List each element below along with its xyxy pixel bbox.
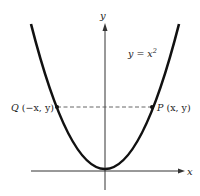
point-p-name: P [156,102,164,113]
y-axis-arrow-icon [103,23,108,31]
equation-label: y = x2 [127,47,157,59]
equation-text: y = x [127,48,153,59]
point-q-name: Q [11,102,19,113]
x-axis-arrow-icon [178,169,185,174]
x-axis-label: x [187,166,193,177]
point-q-coords: (−x, y) [22,102,54,113]
equation-exponent: 2 [152,47,157,55]
y-axis-label: y [99,10,106,21]
point-p [150,105,154,109]
point-p-label: P (x, y) [156,102,191,113]
point-q [55,105,59,109]
point-q-label: Q (−x, y) [11,102,54,113]
point-p-coords: (x, y) [166,102,190,113]
parabola-diagram: y x y = x2 Q (−x, y) P (x, y) [0,0,200,196]
